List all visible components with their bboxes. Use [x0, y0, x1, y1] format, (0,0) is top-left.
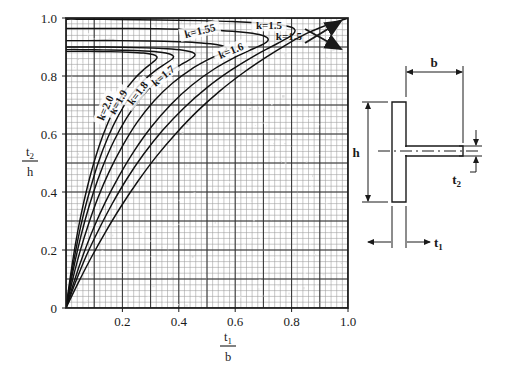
dimension-label-t1: t1 [434, 235, 443, 252]
x-axis-denominator: b [225, 350, 231, 364]
engineering-chart-figure: k=1.5k=1.55k=1.6k=1.7k=1.8k=1.9k=2.0 00.… [0, 0, 508, 370]
x-axis-tick-labels: 0.20.40.60.81.0 [114, 314, 356, 329]
y-tick-label: 0 [51, 301, 58, 316]
x-axis-title: t1 b [220, 330, 236, 364]
y-tick-label: 0.2 [41, 243, 57, 258]
x-axis-numerator-sub: 1 [227, 336, 232, 346]
annotation-k15: k=1.5 [276, 30, 303, 42]
svg-text:k=1.5: k=1.5 [276, 30, 303, 42]
y-axis-numerator-sub: 2 [29, 151, 34, 161]
x-tick-label: 0.8 [283, 314, 299, 329]
y-axis-denominator: h [27, 165, 34, 179]
y-tick-label: 0.6 [41, 127, 58, 142]
plot-area: k=1.5k=1.55k=1.6k=1.7k=1.8k=1.9k=2.0 [62, 18, 349, 312]
x-tick-label: 0.2 [114, 314, 130, 329]
figure-page: k=1.5k=1.55k=1.6k=1.7k=1.8k=1.9k=2.0 00.… [0, 0, 508, 370]
dimension-h [362, 102, 388, 202]
svg-text:k=1.5: k=1.5 [256, 19, 283, 31]
y-tick-label: 0.4 [41, 185, 58, 200]
svg-text:t1: t1 [224, 330, 232, 346]
dimension-label-t2: t2 [452, 172, 461, 189]
flange-outline [392, 102, 406, 202]
y-axis-title: t2 h [22, 145, 38, 179]
x-tick-label: 0.6 [227, 314, 244, 329]
y-tick-label: 0.8 [41, 69, 57, 84]
t-section-diagram: b h t2 [352, 55, 482, 252]
x-tick-label: 1.0 [340, 314, 356, 329]
dimension-label-h: h [352, 145, 360, 160]
svg-text:t2: t2 [26, 145, 34, 161]
dimension-label-b: b [430, 55, 437, 70]
y-axis-tick-labels: 00.20.40.60.81.0 [41, 11, 58, 316]
dimension-t1 [368, 206, 430, 248]
x-tick-label: 0.4 [171, 314, 188, 329]
y-tick-label: 1.0 [41, 11, 57, 26]
dimension-b [406, 66, 463, 143]
